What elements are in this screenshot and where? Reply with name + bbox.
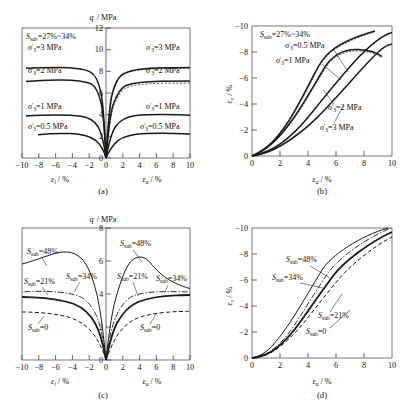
svg-text:−10: −10 bbox=[235, 22, 248, 31]
svg-text:0: 0 bbox=[244, 354, 248, 363]
svg-text:4: 4 bbox=[306, 159, 310, 168]
panel-c-title: q/ MPa bbox=[90, 215, 117, 224]
svg-text:8: 8 bbox=[99, 224, 103, 233]
panel-c-ann-48-left: Ssub=48% bbox=[27, 247, 58, 257]
panel-d-annotations: Ssub=48% Ssub=34% Ssub=21% Ssub=0 bbox=[272, 255, 350, 337]
svg-text:−4: −4 bbox=[68, 363, 77, 372]
panel-c-label: (c) bbox=[98, 390, 108, 400]
svg-text:−6: −6 bbox=[51, 161, 60, 170]
panel-c-ann-34-right: Ssub=34% bbox=[156, 274, 187, 284]
panel-c-xlabel-right: εa/ % bbox=[142, 377, 161, 387]
svg-text:0: 0 bbox=[104, 363, 108, 372]
panel-d-xlabel: εa/ % bbox=[312, 377, 331, 387]
panel-a-ann-3mpa-left: σ′3=3 MPa bbox=[28, 43, 62, 53]
panel-a: q/ MPa 0 2 4 6 8 10 12 bbox=[0, 4, 207, 196]
svg-text:0: 0 bbox=[99, 356, 103, 365]
svg-text:0: 0 bbox=[99, 154, 103, 163]
panel-b-ann-05mpa: σ′3=0.5 MPa bbox=[285, 41, 325, 51]
svg-text:2: 2 bbox=[278, 361, 282, 370]
panel-a-annotations-left: σ′3=3 MPa σ′3=2 MPa σ′3=1 MPa σ′3=0.5 MP… bbox=[28, 43, 68, 132]
svg-text:−2: −2 bbox=[239, 328, 248, 337]
svg-text:10: 10 bbox=[186, 363, 194, 372]
svg-text:4: 4 bbox=[306, 361, 310, 370]
svg-text:6: 6 bbox=[334, 159, 338, 168]
svg-text:−4: −4 bbox=[239, 302, 248, 311]
svg-text:4: 4 bbox=[138, 363, 142, 372]
panel-b-annotations: σ′3=0.5 MPa σ′3=1 MPa σ′3=2 MPa σ′3=3 MP… bbox=[276, 41, 362, 133]
svg-text:8: 8 bbox=[171, 161, 175, 170]
panel-c: q/ MPa 0 2 4 6 8 bbox=[0, 206, 207, 402]
panel-d: 0 −2 −4 −6 −8 −10 0 2 4 6 8 bbox=[210, 206, 415, 402]
panel-a-ann-2mpa-left: σ′3=2 MPa bbox=[28, 66, 62, 76]
svg-text:−8: −8 bbox=[34, 161, 43, 170]
panel-d-ann-34: Ssub=34% bbox=[272, 273, 303, 283]
panel-c-xlabel-left: εl/ % bbox=[51, 377, 69, 387]
panel-a-ann-1mpa-right: σ′3=1 MPa bbox=[146, 102, 180, 112]
panel-b-xlabel: εa/ % bbox=[312, 175, 331, 185]
panel-a-curves bbox=[106, 67, 190, 158]
svg-text:−2: −2 bbox=[85, 363, 94, 372]
svg-text:−6: −6 bbox=[51, 363, 60, 372]
svg-text:8: 8 bbox=[362, 159, 366, 168]
svg-text:−10: −10 bbox=[235, 224, 248, 233]
panel-b-ann-3mpa: σ′3=3 MPa bbox=[320, 123, 354, 133]
svg-text:−6: −6 bbox=[239, 276, 248, 285]
panel-b: 0 −2 −4 −6 −8 −10 0 2 4 6 bbox=[210, 4, 415, 196]
svg-text:8: 8 bbox=[362, 361, 366, 370]
svg-text:2: 2 bbox=[121, 161, 125, 170]
panel-d-y-ticks: 0 −2 −4 −6 −8 −10 bbox=[235, 224, 257, 363]
svg-text:−8: −8 bbox=[239, 250, 248, 259]
svg-text:10: 10 bbox=[388, 159, 396, 168]
svg-text:6: 6 bbox=[99, 257, 103, 266]
svg-text:−10: −10 bbox=[16, 363, 29, 372]
svg-text:−8: −8 bbox=[34, 363, 43, 372]
panel-d-curves bbox=[252, 228, 392, 358]
svg-text:6: 6 bbox=[154, 161, 158, 170]
svg-text:0: 0 bbox=[104, 161, 108, 170]
panel-b-ylabel: εv/ % bbox=[225, 84, 235, 103]
svg-text:0: 0 bbox=[250, 159, 254, 168]
panel-c-ann-34-left: Ssub=34% bbox=[66, 272, 97, 282]
panel-d-ann-48: Ssub=48% bbox=[286, 255, 317, 265]
panel-a-label: (a) bbox=[98, 186, 108, 196]
svg-text:−10: −10 bbox=[16, 161, 29, 170]
svg-text:8: 8 bbox=[99, 67, 103, 76]
svg-text:2: 2 bbox=[121, 363, 125, 372]
svg-text:4: 4 bbox=[99, 290, 103, 299]
svg-text:−2: −2 bbox=[85, 161, 94, 170]
svg-text:8: 8 bbox=[171, 363, 175, 372]
svg-text:0: 0 bbox=[250, 361, 254, 370]
panel-a-ann-05mpa-right: σ′3=0.5 MPa bbox=[140, 122, 180, 132]
panel-c-curves-left bbox=[22, 252, 106, 360]
panel-d-frame bbox=[252, 228, 392, 358]
svg-text:0: 0 bbox=[244, 152, 248, 161]
panel-b-note: Ssub=27%~34% bbox=[260, 30, 310, 40]
panel-c-ann-0-left: Ssub=0 bbox=[28, 323, 48, 333]
svg-text:2: 2 bbox=[278, 159, 282, 168]
panel-a-ann-2mpa-right: σ′3=2 MPa bbox=[146, 66, 180, 76]
panel-a-ann-05mpa-left: σ′3=0.5 MPa bbox=[28, 122, 68, 132]
panel-b-x-ticks: 0 2 4 6 8 10 bbox=[250, 151, 396, 168]
panel-b-ann-2mpa: σ′3=2 MPa bbox=[328, 103, 362, 113]
svg-text:−4: −4 bbox=[239, 100, 248, 109]
svg-text:10: 10 bbox=[388, 361, 396, 370]
panel-a-ann-3mpa-right: σ′3=3 MPa bbox=[146, 43, 180, 53]
svg-text:6: 6 bbox=[154, 363, 158, 372]
panel-c-ann-21-right: Ssub=21% bbox=[117, 272, 148, 282]
panel-d-x-ticks: 0 2 4 6 8 10 bbox=[250, 353, 396, 370]
panel-a-title: q/ MPa bbox=[90, 13, 117, 22]
panel-d-ann-0: Ssub=0 bbox=[306, 327, 326, 337]
panel-b-ann-1mpa: σ′3=1 MPa bbox=[276, 56, 310, 66]
panel-a-xlabel-right: εa/ % bbox=[142, 175, 161, 185]
svg-text:−4: −4 bbox=[68, 161, 77, 170]
panel-d-label: (d) bbox=[317, 390, 327, 400]
panel-a-note: Ssub=27%~34% bbox=[26, 32, 76, 42]
svg-text:4: 4 bbox=[138, 161, 142, 170]
svg-text:12: 12 bbox=[95, 24, 103, 33]
svg-text:10: 10 bbox=[95, 45, 103, 54]
svg-text:10: 10 bbox=[186, 161, 194, 170]
svg-text:−6: −6 bbox=[239, 74, 248, 83]
panel-a-xlabel-left: εl/ % bbox=[51, 175, 69, 185]
figure-sheet: q/ MPa 0 2 4 6 8 10 12 bbox=[0, 0, 415, 405]
panel-b-label: (b) bbox=[317, 186, 327, 196]
